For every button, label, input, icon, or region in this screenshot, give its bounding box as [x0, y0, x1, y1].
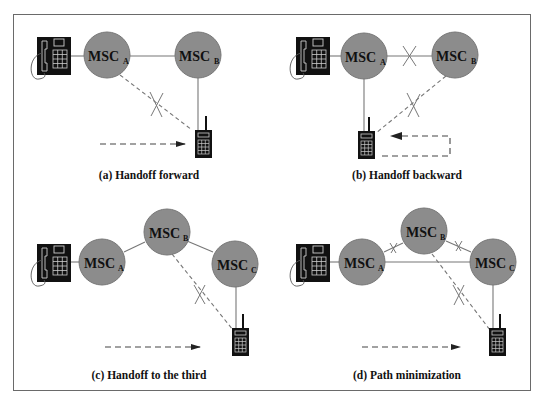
panel-a: MSC A MSC B (a) Handoff forward — [31, 32, 221, 182]
msc-label: MSC — [149, 226, 180, 241]
msc-subscript: B — [440, 233, 446, 242]
movement-arrowhead — [390, 132, 402, 140]
msc-node-b: MSC B — [144, 209, 190, 255]
msc-node-a: MSC A — [84, 32, 130, 78]
msc-node-b: MSC B — [175, 32, 221, 78]
msc-node-a: MSC A — [341, 33, 387, 79]
mobile-phone-icon — [358, 117, 375, 159]
panel-caption: (b) Handoff backward — [352, 169, 463, 182]
msc-node-a: MSC A — [339, 239, 385, 285]
break-mark — [150, 92, 163, 117]
panel-b: MSC A MSC B (b) Handoff backward — [290, 32, 478, 182]
msc-node-c: MSC C — [470, 239, 516, 285]
msc-subscript: A — [123, 57, 129, 66]
link-msc-a-msc-b — [124, 242, 145, 252]
msc-node-c: MSC C — [212, 241, 258, 287]
msc-subscript: C — [509, 264, 515, 273]
desk-phone-icon — [31, 37, 71, 79]
desk-phone-icon — [31, 244, 71, 286]
desk-phone-icon — [290, 37, 330, 79]
msc-node-b: MSC B — [432, 32, 478, 78]
panel-caption: (c) Handoff to the third — [92, 369, 208, 382]
panel-d: MSC A MSC B MSC C (d) Path minimization — [290, 208, 516, 382]
link-msc-b-msc-c — [187, 241, 213, 252]
panel-caption: (a) Handoff forward — [99, 169, 200, 182]
handoff-diagram: MSC A MSC B (a) Handoff forward MSC — [0, 0, 540, 401]
msc-label: MSC — [406, 225, 437, 240]
mobile-phone-icon — [232, 314, 249, 356]
msc-node-a: MSC A — [79, 239, 125, 285]
msc-label: MSC — [345, 50, 376, 65]
msc-label: MSC — [84, 256, 115, 271]
msc-subscript: B — [183, 234, 189, 243]
msc-subscript: B — [214, 57, 220, 66]
msc-label: MSC — [344, 256, 375, 271]
msc-subscript: A — [378, 264, 384, 273]
break-mark — [390, 243, 397, 253]
break-mark — [407, 93, 420, 117]
movement-path — [382, 136, 450, 156]
msc-label: MSC — [88, 49, 119, 64]
broken-link-msc-b-mobile — [376, 76, 446, 133]
msc-subscript: B — [471, 57, 477, 66]
msc-label: MSC — [179, 49, 210, 64]
msc-subscript: A — [380, 58, 386, 67]
broken-link-msc-a-msc-b — [384, 243, 403, 252]
broken-link-msc-a-mobile — [120, 75, 192, 130]
desk-phone-icon — [290, 244, 330, 286]
mobile-phone-icon — [489, 314, 506, 356]
msc-label: MSC — [217, 258, 248, 273]
panel-caption: (d) Path minimization — [353, 369, 462, 382]
msc-label: MSC — [436, 49, 467, 64]
msc-subscript: A — [118, 264, 124, 273]
msc-node-b: MSC B — [401, 208, 447, 254]
panel-c: MSC A MSC B MSC C (c) Handoff to the thi… — [31, 209, 258, 382]
msc-label: MSC — [475, 256, 506, 271]
msc-subscript: C — [251, 266, 257, 275]
